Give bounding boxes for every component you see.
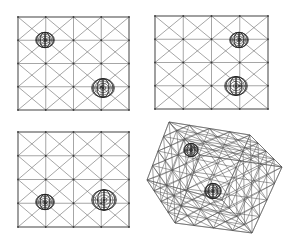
grid-panel-top-left bbox=[17, 16, 130, 111]
sphere-mesh bbox=[225, 77, 248, 96]
grid-panel-bottom-left bbox=[17, 131, 130, 228]
sphere-mesh bbox=[92, 79, 115, 98]
sphere-mesh bbox=[92, 190, 117, 210]
sphere-mesh bbox=[205, 183, 222, 198]
grid-panel-top-right bbox=[154, 15, 269, 110]
sphere-mesh bbox=[36, 194, 55, 209]
mesh-figure bbox=[0, 0, 297, 248]
cube-panel-bottom-right bbox=[147, 122, 282, 233]
sphere-mesh bbox=[184, 143, 199, 156]
sphere-mesh bbox=[230, 32, 249, 47]
sphere-mesh bbox=[36, 32, 55, 47]
